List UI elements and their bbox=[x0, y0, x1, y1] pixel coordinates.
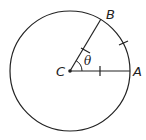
label-a: A bbox=[132, 64, 142, 79]
angle-arc bbox=[76, 61, 82, 71]
label-b: B bbox=[106, 7, 115, 22]
center-point bbox=[68, 69, 72, 73]
label-c: C bbox=[56, 64, 66, 79]
circle-diagram: C A B θ bbox=[0, 0, 146, 140]
label-theta: θ bbox=[84, 54, 92, 68]
diagram: C A B θ bbox=[0, 0, 146, 140]
